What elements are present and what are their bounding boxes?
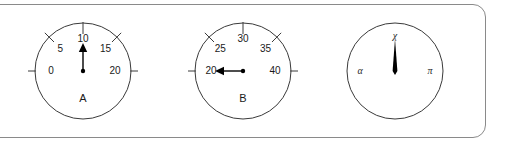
tick-label: 15 — [100, 43, 112, 54]
tick-label: χ — [392, 30, 398, 41]
tick-label: 20 — [109, 65, 121, 76]
gauge-group: 05101520A2025303540Bαχπ — [0, 0, 519, 146]
tick-label: 35 — [260, 43, 272, 54]
dial-name-label: B — [239, 92, 246, 104]
tick-label: 5 — [58, 43, 64, 54]
tick-label: 0 — [48, 65, 54, 76]
tick-label: 10 — [77, 33, 89, 44]
tick-label: 20 — [205, 65, 217, 76]
gauge-b: 2025303540B — [179, 7, 307, 135]
needle-pivot — [241, 69, 245, 73]
tick-label: 30 — [237, 33, 249, 44]
gauge-c: αχπ — [331, 7, 459, 135]
tick-label: α — [357, 65, 363, 76]
tick-label: 40 — [269, 65, 281, 76]
tick-label: 25 — [215, 43, 227, 54]
gauge-a: 05101520A — [19, 7, 147, 135]
dial-name-label: A — [79, 92, 87, 104]
needle-pivot — [81, 69, 85, 73]
